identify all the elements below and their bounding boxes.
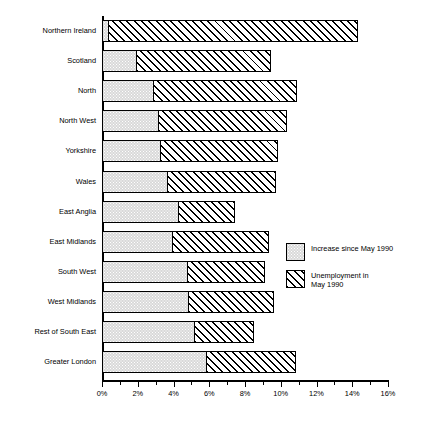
legend-label-increase: Increase since May 1990 — [311, 243, 393, 253]
x-tick-minor — [299, 381, 300, 385]
legend-item-unemployment: Unemployment in May 1990 — [286, 270, 424, 290]
x-tick-label: 4% — [159, 389, 189, 398]
x-tick-major — [245, 381, 246, 387]
category-label: Scotland — [0, 50, 96, 72]
x-tick-minor — [370, 381, 371, 385]
bar-segment-unemployment — [167, 171, 276, 193]
x-tick-label: 8% — [230, 389, 260, 398]
category-label: Rest of South East — [0, 321, 96, 343]
bar-chart: Northern IrelandScotlandNorthNorth WestY… — [0, 0, 426, 434]
bar-segment-increase — [102, 351, 207, 373]
bar-segment-unemployment — [206, 351, 295, 373]
x-tick-label: 12% — [302, 389, 332, 398]
category-label: North West — [0, 110, 96, 132]
bar-segment-increase — [102, 201, 179, 223]
x-tick-label: 0% — [87, 389, 117, 398]
category-label: North — [0, 80, 96, 102]
category-label: Yorkshire — [0, 140, 96, 162]
category-label: Greater London — [0, 351, 96, 373]
bar-segment-unemployment — [172, 231, 269, 253]
bar-segment-unemployment — [194, 321, 255, 343]
bar-segment-unemployment — [108, 20, 358, 42]
bar-row — [102, 20, 358, 42]
bar-segment-increase — [102, 171, 168, 193]
legend-item-increase: Increase since May 1990 — [286, 243, 424, 261]
bar-row — [102, 50, 271, 72]
x-tick-label: 2% — [123, 389, 153, 398]
x-tick-major — [317, 381, 318, 387]
bar-row — [102, 140, 278, 162]
x-tick-major — [138, 381, 139, 387]
grey-dotted-swatch — [286, 243, 305, 261]
category-label: South West — [0, 261, 96, 283]
bar-segment-unemployment — [160, 140, 278, 162]
bar-segment-increase — [102, 261, 188, 283]
bar-row — [102, 291, 274, 313]
x-tick-label: 14% — [337, 389, 367, 398]
bar-segment-increase — [102, 110, 159, 132]
bar-segment-increase — [102, 80, 154, 102]
bar-segment-unemployment — [188, 291, 274, 313]
x-tick-label: 16% — [373, 389, 403, 398]
category-label: Wales — [0, 171, 96, 193]
bar-row — [102, 171, 276, 193]
x-tick-major — [174, 381, 175, 387]
x-tick-minor — [120, 381, 121, 385]
bar-row — [102, 201, 235, 223]
bar-row — [102, 351, 296, 373]
bar-segment-unemployment — [136, 50, 270, 72]
x-tick-major — [209, 381, 210, 387]
x-tick-major — [352, 381, 353, 387]
bar-segment-increase — [102, 231, 174, 253]
bar-segment-increase — [102, 291, 190, 313]
bar-segment-increase — [102, 50, 138, 72]
bar-segment-increase — [102, 321, 195, 343]
hatch-swatch — [286, 270, 305, 288]
bar-row — [102, 321, 254, 343]
legend: Increase since May 1990 Unemployment in … — [286, 243, 424, 299]
x-tick-minor — [263, 381, 264, 385]
bar-segment-unemployment — [178, 201, 235, 223]
x-tick-label: 10% — [266, 389, 296, 398]
x-tick-minor — [191, 381, 192, 385]
x-tick-minor — [334, 381, 335, 385]
x-tick-major — [102, 381, 103, 387]
bar-segment-unemployment — [153, 80, 298, 102]
bar-segment-unemployment — [187, 261, 266, 283]
x-tick-minor — [227, 381, 228, 385]
bar-row — [102, 261, 265, 283]
x-tick-major — [281, 381, 282, 387]
bar-row — [102, 80, 297, 102]
category-label: Northern Ireland — [0, 20, 96, 42]
x-tick-label: 6% — [194, 389, 224, 398]
bar-segment-unemployment — [158, 110, 287, 132]
category-label: West Midlands — [0, 291, 96, 313]
legend-label-unemployment: Unemployment in May 1990 — [311, 270, 369, 290]
bar-segment-increase — [102, 140, 161, 162]
x-tick-major — [388, 381, 389, 387]
bar-row — [102, 110, 287, 132]
category-label: East Anglia — [0, 201, 96, 223]
x-tick-minor — [156, 381, 157, 385]
category-label: East Midlands — [0, 231, 96, 253]
bar-row — [102, 231, 269, 253]
